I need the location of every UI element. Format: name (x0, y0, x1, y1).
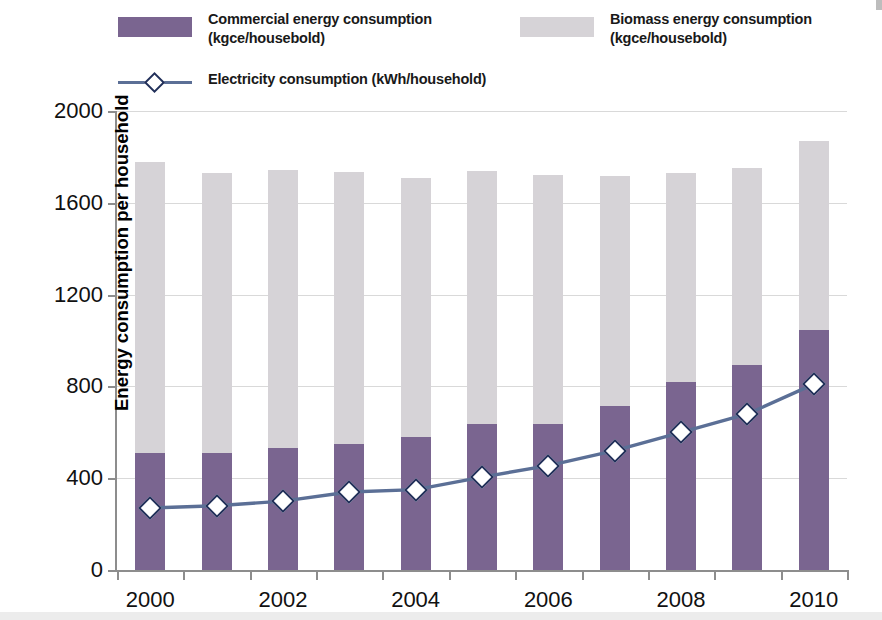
legend-swatch-biomass-icon (520, 17, 594, 37)
electricity-polyline (150, 384, 814, 508)
x-tick-label-2006: 2006 (524, 587, 573, 613)
x-tick-label-2010: 2010 (789, 587, 838, 613)
legend-label-commercial: Commercial energy consumption (kgce/hous… (208, 10, 432, 48)
x-tick-label-2004: 2004 (391, 587, 440, 613)
legend-label-electricity: Electricity consumption (kWh/household) (208, 70, 486, 89)
legend-item-biomass[interactable]: Biomass energy consumption (kgce/housebo… (520, 10, 812, 48)
y-axis-title: Energy consumption per household (111, 94, 133, 411)
x-tick-7 (582, 570, 584, 580)
scan-edge-artifact (876, 0, 882, 10)
y-tick-label-400: 400 (66, 465, 103, 491)
x-tick-10 (781, 570, 783, 580)
legend-line-electricity-icon (118, 72, 192, 92)
y-tick-label-1600: 1600 (54, 190, 103, 216)
plot-area: 0400800120016002000 20002002200420062008… (115, 111, 847, 572)
x-tick-label-2000: 2000 (126, 587, 175, 613)
legend-swatch-commercial-icon (118, 17, 192, 37)
x-tick-11 (847, 570, 849, 580)
chart-legend: Commercial energy consumption (kgce/hous… (0, 0, 882, 96)
y-tick-label-800: 800 (66, 373, 103, 399)
y-tick-label-2000: 2000 (54, 98, 103, 124)
x-tick-label-2008: 2008 (657, 587, 706, 613)
x-tick-9 (714, 570, 716, 580)
electricity-line-series (117, 111, 847, 570)
y-tick-label-0: 0 (91, 557, 103, 583)
scan-bottom-artifact (0, 612, 882, 620)
legend-label-biomass: Biomass energy consumption (kgce/housebo… (610, 10, 812, 48)
x-tick-2 (250, 570, 252, 580)
y-tick-label-1200: 1200 (54, 282, 103, 308)
x-tick-5 (449, 570, 451, 580)
x-tick-0 (117, 570, 119, 580)
legend-item-commercial[interactable]: Commercial energy consumption (kgce/hous… (118, 10, 432, 48)
x-tick-4 (382, 570, 384, 580)
x-tick-1 (183, 570, 185, 580)
y-tick-400 (108, 478, 117, 480)
x-tick-3 (316, 570, 318, 580)
x-tick-6 (515, 570, 517, 580)
x-tick-8 (648, 570, 650, 580)
x-tick-label-2002: 2002 (258, 587, 307, 613)
energy-consumption-chart: Commercial energy consumption (kgce/hous… (0, 0, 882, 620)
legend-item-electricity[interactable]: Electricity consumption (kWh/household) (118, 70, 486, 92)
y-tick-0 (108, 570, 117, 572)
legend-diamond-marker-icon (144, 72, 165, 93)
